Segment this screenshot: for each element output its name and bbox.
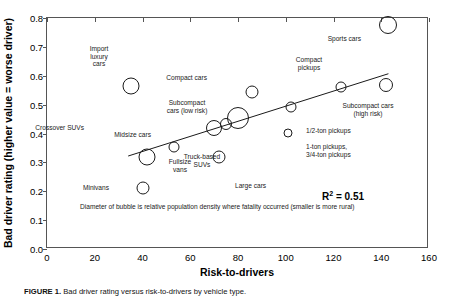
x-tick-label: 60 [185, 247, 196, 263]
data-point-label: Large cars [235, 182, 266, 190]
data-point-label: 1-ton pickups, 3/4-ton pickups [306, 143, 351, 158]
x-tick-label: 20 [89, 247, 100, 263]
y-tick-mark [43, 47, 47, 48]
data-point-bubble [122, 77, 139, 94]
figure-caption-text: Bad driver rating versus risk-to-drivers… [63, 287, 246, 296]
data-point-bubble [246, 85, 259, 98]
x-tick-label: 80 [233, 247, 244, 263]
plot-area: 0.00.10.20.30.40.50.60.70.8 020406080100… [46, 17, 428, 248]
data-point-bubble [139, 148, 156, 165]
x-tick-mark [190, 18, 191, 22]
figure-caption: FIGURE 1. Bad driver rating versus risk-… [24, 287, 428, 296]
r-squared-annotation: R2 = 0.51 [322, 190, 364, 202]
data-point-label: Sports cars [328, 35, 361, 43]
figure-caption-label: FIGURE 1. [24, 287, 61, 296]
x-tick-mark [286, 18, 287, 22]
bubble-size-note: Diameter of bubble is relative populatio… [80, 203, 355, 210]
x-tick-mark [334, 18, 335, 22]
figure-container: Bad driver rating (higher value = worse … [0, 0, 450, 297]
data-point-label: Truck-based SUVs [184, 153, 220, 168]
x-tick-label: 100 [278, 247, 294, 263]
data-point-label: 1/2-ton pickups [306, 127, 351, 135]
x-tick-label: 0 [44, 247, 49, 263]
x-axis-title: Risk-to-drivers [46, 266, 428, 278]
y-axis-title: Bad driver rating (higher value = worse … [1, 17, 15, 248]
y-tick-mark [43, 76, 47, 77]
x-tick-label: 40 [137, 247, 148, 263]
y-axis-title-text: Bad driver rating (higher value = worse … [2, 17, 14, 247]
y-tick-mark [43, 162, 47, 163]
x-tick-label: 140 [373, 247, 389, 263]
r-squared-value: = 0.51 [333, 191, 364, 202]
data-point-label: Subcompact cars (low risk) [167, 99, 208, 114]
data-point-bubble [335, 81, 346, 92]
data-point-label: Import luxury cars [90, 45, 109, 68]
y-tick-mark [43, 220, 47, 221]
x-tick-mark [238, 18, 239, 22]
data-point-label: Minivans [83, 184, 109, 192]
data-point-bubble [227, 107, 249, 129]
data-point-bubble [136, 181, 149, 194]
data-point-label: Midsize cars [114, 131, 151, 139]
y-tick-mark [43, 134, 47, 135]
data-point-label: Compact pickups [296, 56, 322, 71]
data-point-label: Subcompact cars (high risk) [343, 102, 394, 117]
data-point-bubble [168, 142, 179, 153]
y-tick-mark [43, 105, 47, 106]
data-point-bubble [379, 16, 397, 34]
x-tick-mark [95, 18, 96, 22]
y-tick-mark [43, 191, 47, 192]
data-point-bubble [284, 128, 293, 137]
x-tick-mark [143, 18, 144, 22]
x-tick-label: 120 [326, 247, 342, 263]
x-tick-mark [429, 18, 430, 22]
data-point-label: Compact cars [166, 74, 207, 82]
x-tick-mark [47, 18, 48, 22]
data-point-bubble [285, 101, 296, 112]
data-point-bubble [379, 78, 393, 92]
data-point-label: Crossover SUVs [35, 124, 84, 132]
x-tick-label: 160 [421, 247, 437, 263]
